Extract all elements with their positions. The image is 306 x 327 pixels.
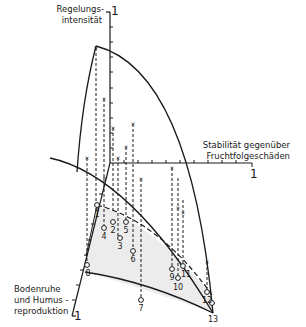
horizontal-axis-label-line1: Stabilität gegenüber: [203, 140, 291, 150]
svg-text:×: ×: [204, 258, 209, 265]
point-10: [176, 276, 181, 281]
point-label-6: 6: [130, 255, 135, 264]
horizontal-axis-max: 1: [250, 167, 258, 181]
oblique-axis-label-line3: reproduktion: [14, 306, 68, 316]
point-4: [102, 226, 107, 231]
point-label-7: 7: [138, 304, 143, 313]
oblique-axis-label-line1: Bodenruhe: [14, 284, 61, 294]
point-8: [85, 263, 90, 268]
oblique-axis-max: 1: [74, 309, 82, 323]
point-label-11: 11: [181, 270, 191, 279]
point-1: [95, 203, 100, 208]
svg-text:×: ×: [93, 44, 98, 51]
svg-text:×: ×: [101, 95, 106, 102]
point-6: [131, 249, 136, 254]
svg-text:×: ×: [169, 164, 174, 171]
point-label-3: 3: [117, 242, 122, 251]
point-label-4: 4: [101, 232, 106, 241]
point-label-8: 8: [85, 269, 90, 278]
point-label-13: 13: [208, 315, 218, 324]
oblique-axis-label-line2: und Humus -: [14, 295, 69, 305]
point-11: [181, 264, 186, 269]
horizontal-axis-label-line2: Fruchtfolgeschäden: [207, 151, 290, 161]
point-5: [124, 220, 129, 225]
point-label-2: 2: [110, 226, 115, 235]
point-label-12: 12: [202, 296, 212, 305]
svg-text:×: ×: [123, 143, 128, 150]
point-label-5: 5: [123, 226, 128, 235]
svg-text:×: ×: [84, 154, 89, 161]
svg-text:×: ×: [180, 209, 185, 216]
vertical-axis-label-line2: intensität: [62, 15, 103, 25]
point-label-9: 9: [169, 273, 174, 282]
point-12: [205, 290, 210, 295]
point-3: [118, 236, 123, 241]
svg-text:×: ×: [130, 120, 135, 127]
vertical-axis-max: 1: [111, 4, 119, 18]
point-9: [170, 267, 175, 272]
svg-text:×: ×: [138, 175, 143, 182]
point-2: [111, 220, 116, 225]
point-label-1: 1: [94, 210, 99, 219]
three-axis-diagram: × × × × × × × × × × × × 1 2 3 4 5 6: [0, 0, 306, 327]
point-7: [139, 298, 144, 303]
svg-text:×: ×: [115, 154, 120, 161]
svg-text:×: ×: [110, 124, 115, 131]
vertical-axis-label-line1: Regelungs-: [57, 4, 104, 14]
point-label-10: 10: [173, 283, 183, 292]
